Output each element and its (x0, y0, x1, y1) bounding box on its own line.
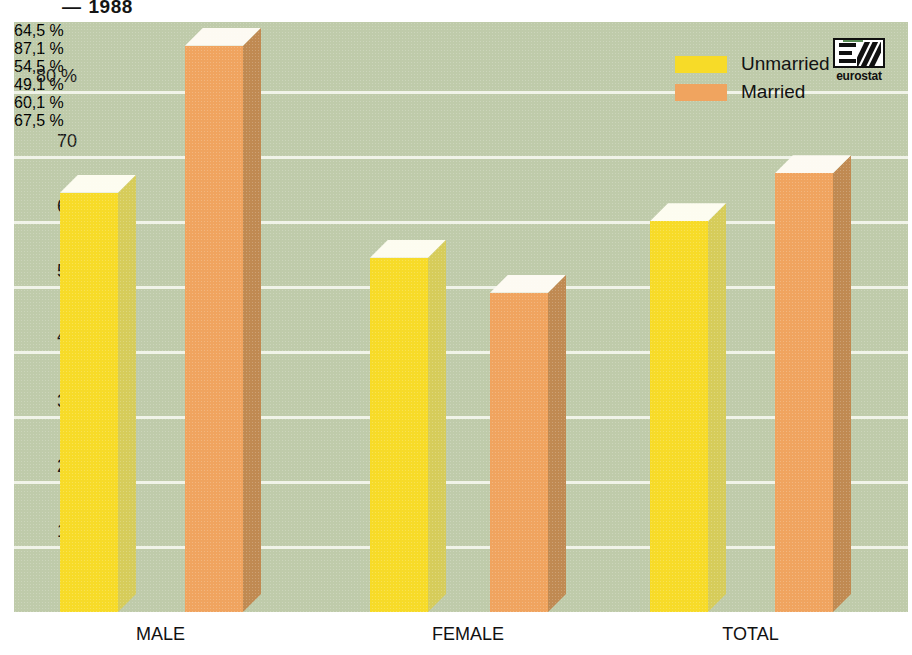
eurostat-logo-icon: eurostat (833, 38, 885, 84)
bar-front-face (650, 221, 708, 612)
gridline (14, 286, 908, 289)
bar-side-face (833, 155, 851, 612)
bar-side-face (708, 203, 726, 612)
bar-front-face (490, 293, 548, 612)
bar-side-face (548, 275, 566, 612)
bar-data-label: 64,5 % (14, 22, 908, 40)
y-axis-tick-label: 70 (17, 131, 77, 152)
legend-swatch-icon (675, 56, 727, 73)
bar-data-label: 67,5 % (14, 112, 908, 130)
legend-item: Unmarried (675, 52, 830, 76)
bar-total-unmarried (650, 203, 726, 612)
bar-male-unmarried (60, 175, 136, 612)
eurostat-logo-slash-glyph (857, 42, 881, 66)
bar-female-married (490, 275, 566, 612)
gridline (14, 221, 908, 224)
bar-female-unmarried (370, 240, 446, 612)
x-axis-category-label-female: FEMALE (370, 624, 566, 645)
eurostat-logo-mark (833, 38, 885, 68)
gridline (14, 156, 908, 159)
legend-item-label: Married (741, 81, 805, 103)
gridline (14, 416, 908, 419)
gridline (14, 351, 908, 354)
bar-total-married (775, 155, 851, 612)
legend-item: Married (675, 80, 830, 104)
bar-front-face (775, 173, 833, 612)
bar-front-face (185, 46, 243, 612)
legend-item-label: Unmarried (741, 53, 830, 75)
bar-front-face (60, 193, 118, 612)
plot-area: 01020304050607080 % 64,5 %87,1 %54,5 %49… (14, 22, 908, 612)
gridline (14, 481, 908, 484)
chart-legend: Unmarried Married (675, 52, 830, 108)
eurostat-logo-e-glyph (839, 43, 856, 64)
x-axis-category-label-male: MALE (60, 624, 261, 645)
legend-swatch-icon (675, 84, 727, 101)
x-axis-category-label-total: TOTAL (650, 624, 851, 645)
gridline (14, 546, 908, 549)
bar-side-face (428, 240, 446, 612)
chart-title-dash: — (62, 0, 82, 18)
bar-male-married (185, 28, 261, 612)
chart-title-text: 1988 (89, 0, 133, 17)
bar-front-face (370, 258, 428, 612)
y-axis-tick-label: 80 % (17, 66, 77, 87)
eurostat-logo-wordmark: eurostat (833, 69, 885, 83)
chart-figure: —1988 01020304050607080 % 64,5 %87,1 %54… (0, 0, 912, 655)
chart-title: —1988 (62, 0, 133, 18)
bar-side-face (243, 28, 261, 612)
bar-side-face (118, 175, 136, 612)
